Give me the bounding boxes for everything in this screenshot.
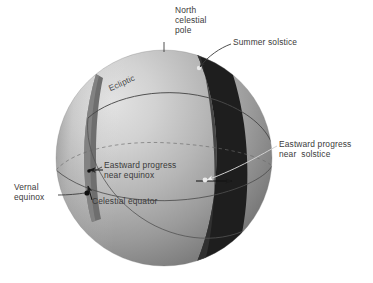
label-summer-solstice: Summer solstice: [233, 37, 297, 47]
solstice-point-marker: [203, 178, 208, 183]
ecliptic-lower-continuation: [262, 198, 272, 220]
equinox-band-upper-point: [87, 169, 91, 173]
label-eastward-progress-near-solstice: Eastward progress near solstice: [279, 139, 351, 159]
label-eastward-progress-near-equinox: Eastward progress near equinox: [104, 160, 176, 180]
label-vernal-equinox: Vernal equinox: [14, 182, 44, 202]
label-celestial-equator: Celestial equator: [92, 196, 157, 206]
label-north-celestial-pole: North celestial pole: [175, 5, 207, 36]
celestial-sphere-figure: North celestial pole Summer solstice Eas…: [0, 0, 373, 283]
vernal-equinox-point: [84, 190, 89, 195]
